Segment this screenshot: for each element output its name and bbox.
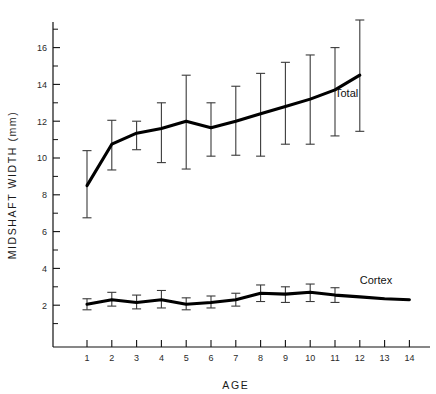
x-tick-label: 6	[208, 353, 213, 363]
y-tick-label: 10	[37, 153, 47, 163]
y-tick-label: 12	[37, 117, 47, 127]
series-line	[87, 292, 409, 304]
error-bar	[207, 103, 216, 156]
x-tick-label: 14	[404, 353, 414, 363]
midshaft-width-chart: 2468101214161234567891011121314AGEMIDSHA…	[0, 0, 436, 394]
y-axis-title: MIDSHAFT WIDTH (mm)	[6, 111, 18, 260]
y-tick-label: 6	[42, 227, 47, 237]
series-line	[87, 75, 360, 185]
x-axis-title: AGE	[222, 379, 249, 391]
x-tick-label: 3	[134, 353, 139, 363]
error-bar	[157, 103, 166, 163]
x-tick-label: 8	[258, 353, 263, 363]
y-tick-label: 2	[42, 301, 47, 311]
x-tick-label: 11	[330, 353, 339, 363]
x-tick-label: 7	[233, 353, 238, 363]
series-label-cortex: Cortex	[360, 274, 393, 286]
x-tick-label: 4	[159, 353, 164, 363]
series-cortex	[83, 284, 410, 310]
y-tick-label: 16	[37, 43, 47, 53]
x-tick-label: 13	[380, 353, 390, 363]
chart-labels: 2468101214161234567891011121314AGEMIDSHA…	[6, 43, 414, 391]
x-tick-label: 1	[84, 353, 89, 363]
y-tick-label: 8	[42, 190, 47, 200]
series-total	[83, 20, 365, 218]
x-tick-label: 10	[305, 353, 315, 363]
x-tick-label: 9	[283, 353, 288, 363]
series-label-total: Total	[335, 87, 358, 99]
x-tick-label: 12	[355, 353, 365, 363]
x-tick-label: 2	[109, 353, 114, 363]
y-tick-label: 14	[37, 80, 47, 90]
data-series	[83, 20, 410, 310]
y-tick-label: 4	[42, 264, 47, 274]
chart-container: 2468101214161234567891011121314AGEMIDSHA…	[0, 0, 436, 394]
error-bar	[281, 62, 290, 144]
x-tick-label: 5	[184, 353, 189, 363]
